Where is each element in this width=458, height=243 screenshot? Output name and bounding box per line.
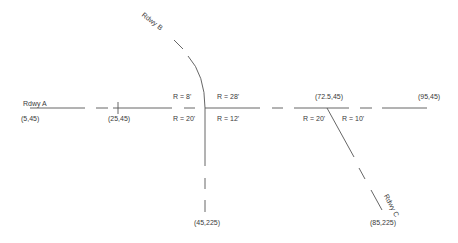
radius-b-ne: R = 28' [217, 93, 239, 100]
radius-b-sw: R = 20' [173, 115, 195, 122]
coord-a-end: (95,45) [418, 93, 440, 100]
rdwy-b-dash [174, 40, 183, 49]
coord-b-end: (45,225) [194, 219, 220, 226]
radius-b-se: R = 12' [217, 115, 239, 122]
rdwy-c-dash [359, 168, 365, 179]
coord-intersection-c: (72.5,45) [315, 93, 343, 100]
coord-a-tick: (25,45) [108, 115, 130, 122]
coord-c-end: (85,225) [370, 219, 396, 226]
radius-c-left: R = 20' [303, 115, 325, 122]
radius-b-nw: R = 8' [173, 93, 191, 100]
coord-a-start: (5,45) [21, 115, 39, 122]
rdwy-b-curve [188, 56, 205, 108]
rdwy-c-dash [371, 190, 382, 210]
rdwy-a-label: Rdwy A [23, 100, 47, 107]
radius-c-right: R = 10' [342, 115, 364, 122]
